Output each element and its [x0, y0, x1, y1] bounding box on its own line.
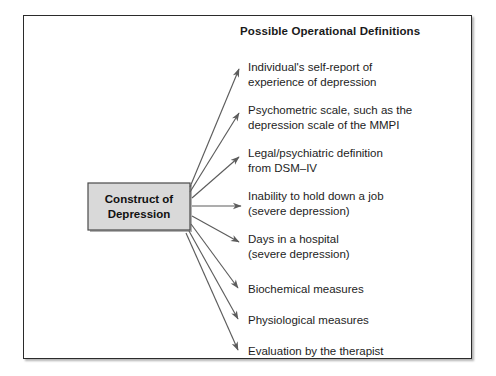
definition-line-1: Biochemical measures [248, 282, 364, 297]
definition-line-2: (severe depression) [248, 247, 350, 262]
definition-line-1: Individual's self-report of [248, 60, 377, 75]
figure-canvas: Construct of Depression Possible Operati… [0, 0, 496, 376]
definition-line-1: Days in a hospital [248, 232, 350, 247]
definition-biochemical-measures: Biochemical measures [248, 282, 364, 297]
definition-line-1: Physiological measures [248, 313, 369, 328]
definition-line-2: from DSM–IV [248, 161, 383, 176]
definition-days-in-hospital: Days in a hospital (severe depression) [248, 232, 350, 261]
figure-heading: Possible Operational Definitions [240, 25, 420, 37]
definition-line-1: Evaluation by the therapist [248, 344, 384, 359]
definition-inability-to-work: Inability to hold down a job (severe dep… [248, 189, 384, 218]
definition-physiological-measures: Physiological measures [248, 313, 369, 328]
definition-psychometric-scale: Psychometric scale, such as the depressi… [248, 103, 412, 132]
definition-line-1: Psychometric scale, such as the [248, 103, 412, 118]
definition-line-1: Inability to hold down a job [248, 189, 384, 204]
definition-line-2: (severe depression) [248, 204, 384, 219]
definition-self-report: Individual's self-report of experience o… [248, 60, 377, 89]
definition-line-2: depression scale of the MMPI [248, 118, 412, 133]
definition-line-1: Legal/psychiatric definition [248, 146, 383, 161]
definition-line-2: experience of depression [248, 75, 377, 90]
definition-legal-psychiatric: Legal/psychiatric definition from DSM–IV [248, 146, 383, 175]
definition-therapist-evaluation: Evaluation by the therapist [248, 344, 384, 359]
